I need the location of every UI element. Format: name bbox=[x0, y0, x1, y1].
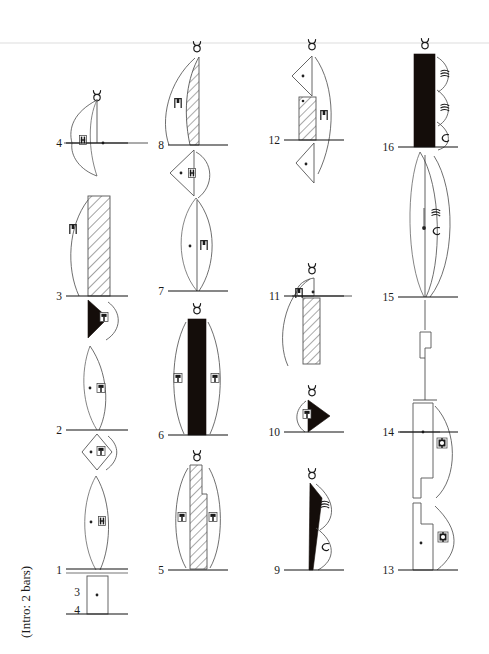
event-wedge-black-bar3 bbox=[88, 300, 118, 340]
event-bar-hatched-bar12 bbox=[299, 97, 327, 140]
system-3: 12 11 10 9 bbox=[269, 40, 353, 576]
phrase-arc-lower bbox=[72, 143, 97, 176]
box-glyph-left bbox=[174, 373, 182, 382]
event-triangle-open-bar12-bottom bbox=[296, 143, 314, 183]
phrase-arc-1 bbox=[437, 57, 448, 92]
taurus-symbol bbox=[308, 264, 315, 274]
bracket-glyph bbox=[189, 168, 196, 177]
event-step-open-bar13 bbox=[413, 503, 454, 570]
notehead-triangle-open bbox=[296, 143, 314, 183]
barline-number-9: 9 bbox=[274, 564, 280, 576]
articulation-dot bbox=[90, 521, 93, 524]
notehead-step-open bbox=[413, 403, 433, 498]
system-4: 16 15 14 13 bbox=[383, 39, 459, 576]
notehead-bar-hatched bbox=[303, 298, 320, 364]
event-spike-black-bar9 bbox=[308, 469, 331, 570]
script-glyph-2 bbox=[441, 104, 450, 111]
notehead-blade-hatched bbox=[186, 57, 199, 145]
event-rect-open-intro bbox=[87, 576, 108, 614]
score-canvas: 4 3 2 1 3 4 bbox=[0, 0, 489, 654]
box-glyph bbox=[97, 446, 105, 455]
barline-number-16: 16 bbox=[383, 141, 395, 153]
articulation-dot bbox=[189, 245, 192, 248]
barline-number-8: 8 bbox=[158, 139, 164, 151]
script-glyph-1 bbox=[441, 70, 450, 77]
event-bar-hatched-bar11 bbox=[303, 298, 320, 364]
taurus-symbol bbox=[308, 40, 315, 50]
barline-number-13: 13 bbox=[383, 564, 395, 576]
box-glyph bbox=[97, 383, 105, 392]
articulation-dot bbox=[305, 163, 308, 166]
notehead-step-open bbox=[413, 503, 433, 570]
hook-glyph bbox=[175, 99, 181, 108]
barline-number-10: 10 bbox=[269, 426, 281, 438]
box-glyph-right bbox=[211, 373, 219, 382]
event-wedge-black-bar10 bbox=[297, 386, 330, 432]
notehead-bar-hatched bbox=[299, 97, 316, 140]
event-lens-open-bar4 bbox=[64, 91, 148, 176]
event-lens-open-bar7 bbox=[181, 198, 212, 291]
articulation-dot bbox=[420, 542, 423, 545]
articulation-dot bbox=[302, 100, 305, 103]
barline-number-2: 2 bbox=[56, 424, 62, 436]
hook-glyph bbox=[321, 111, 327, 120]
notehead-lens-left bbox=[181, 198, 197, 291]
box-glyph bbox=[100, 312, 108, 321]
box-glyph-left bbox=[178, 512, 186, 521]
script-glyph-lower bbox=[433, 228, 439, 235]
barline-number-14: 14 bbox=[383, 426, 395, 438]
articulation-dot bbox=[90, 451, 93, 454]
taurus-symbol bbox=[193, 304, 200, 314]
ring-glyph bbox=[438, 532, 448, 542]
ring-glyph bbox=[437, 438, 447, 448]
articulation-dot bbox=[89, 387, 92, 390]
barline-number-11: 11 bbox=[269, 290, 280, 302]
score-page: 4 3 2 1 3 4 bbox=[0, 0, 489, 654]
system-1: 4 3 2 1 3 4 bbox=[56, 91, 148, 616]
script-glyph-upper bbox=[432, 209, 441, 216]
phrase-arc-right bbox=[435, 406, 452, 498]
phrase-arc-right bbox=[196, 152, 210, 198]
taurus-symbol bbox=[193, 451, 200, 461]
event-lens-open-bar1 bbox=[85, 476, 109, 570]
script-glyph-lower bbox=[322, 544, 328, 551]
notehead-bar-hatched bbox=[88, 196, 110, 296]
barline-number-7: 7 bbox=[158, 285, 164, 297]
event-blade-hatched-bar8 bbox=[165, 42, 200, 145]
articulation-dot bbox=[422, 226, 426, 230]
event-diamond-open-bar2 bbox=[82, 434, 117, 470]
event-bar-hatched-bar3 bbox=[70, 196, 110, 296]
notehead-bar-black bbox=[414, 54, 435, 147]
event-lens-open-bar15 bbox=[410, 152, 450, 297]
barline-number-4: 4 bbox=[56, 137, 62, 149]
taurus-symbol bbox=[421, 39, 428, 49]
time-sig-lower: 4 bbox=[74, 604, 80, 616]
box-glyph bbox=[303, 409, 311, 418]
articulation-dot bbox=[312, 291, 315, 294]
notehead-rest-flag bbox=[420, 332, 431, 358]
barline-number-6: 6 bbox=[158, 429, 164, 441]
notehead-bar-hatched bbox=[190, 465, 207, 569]
phrase-arc-2 bbox=[437, 90, 448, 126]
event-step-open-bar14 bbox=[400, 403, 452, 498]
event-bar-black-bar6 bbox=[174, 304, 221, 435]
barline-number-12: 12 bbox=[269, 134, 281, 146]
bracket-glyph bbox=[99, 516, 106, 525]
taurus-symbol bbox=[308, 469, 315, 479]
articulation-dot bbox=[96, 594, 99, 597]
articulation-dot bbox=[180, 172, 183, 175]
notehead-spike-black bbox=[309, 483, 322, 570]
event-bar-black-bar16 bbox=[414, 39, 449, 150]
event-triangle-open-bar8 bbox=[170, 150, 210, 198]
system-2: 8 7 6 5 bbox=[158, 42, 228, 576]
event-rest-flag bbox=[413, 300, 437, 400]
notehead-lens-right bbox=[420, 152, 437, 297]
script-glyph-upper bbox=[321, 501, 330, 508]
hook-glyph bbox=[201, 241, 207, 250]
taurus-symbol bbox=[308, 386, 315, 396]
articulation-dot bbox=[302, 75, 305, 78]
notehead-lens-left bbox=[410, 152, 424, 297]
barline-number-5: 5 bbox=[158, 564, 164, 576]
notehead-bar-black bbox=[188, 319, 206, 435]
event-bar-hatched-bar5 bbox=[176, 451, 221, 569]
